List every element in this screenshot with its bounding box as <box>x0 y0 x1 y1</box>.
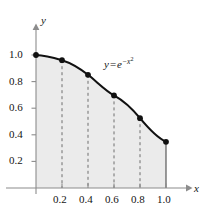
data-point-x08 <box>137 115 143 121</box>
x-tick-label-02: 0.2 <box>53 194 67 205</box>
y-tick-label-04: 0.4 <box>9 129 23 140</box>
x-tick-label-08: 0.8 <box>131 194 145 205</box>
curve-equation-annotation: y=e−x2 <box>104 58 133 70</box>
equation-exponent: −x2 <box>122 57 133 66</box>
y-tick-label-10: 1.0 <box>9 49 23 60</box>
x-axis-label: x <box>194 183 199 194</box>
data-point-x04 <box>85 72 91 78</box>
equation-exponent-power: 2 <box>130 55 133 61</box>
y-axis-arrowhead <box>33 24 40 31</box>
y-tick-label-02: 0.2 <box>9 155 23 166</box>
x-tick-label-04: 0.4 <box>79 194 93 205</box>
y-tick-label-08: 0.8 <box>9 76 23 87</box>
x-tick-label-10: 1.0 <box>157 194 171 205</box>
y-axis-label: y <box>41 15 46 26</box>
data-point-x10 <box>163 139 169 145</box>
data-point-x00 <box>33 52 39 58</box>
y-tick-label-06: 0.6 <box>9 102 23 113</box>
x-axis-arrowhead <box>186 185 193 192</box>
data-point-x06 <box>111 93 117 99</box>
x-tick-label-06: 0.6 <box>105 194 119 205</box>
plot-canvas <box>0 0 203 216</box>
shaded-area-under-curve <box>36 55 166 188</box>
data-point-x02 <box>59 57 65 63</box>
equation-operator: = <box>109 58 117 70</box>
figure-container: y x 1.0 0.8 0.6 0.4 0.2 0.2 0.4 0.6 0.8 … <box>0 0 203 216</box>
